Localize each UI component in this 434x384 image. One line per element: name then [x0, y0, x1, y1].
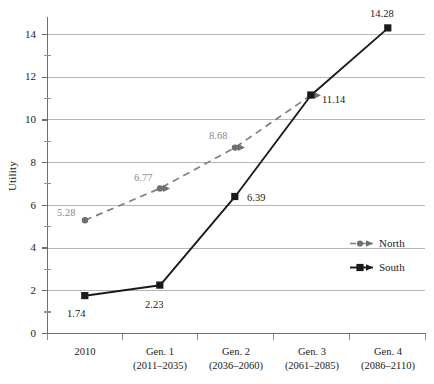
utility-line-chart: Utility 14 12 10 8 6 4 2 0 2010 Gen. 1 (…	[0, 0, 434, 384]
legend-item-south: South	[379, 262, 405, 273]
legend-item-north: North	[379, 238, 405, 249]
legend-swatch-south	[350, 264, 373, 271]
legend-swatch-north	[350, 240, 373, 247]
legend-marks	[0, 0, 434, 384]
